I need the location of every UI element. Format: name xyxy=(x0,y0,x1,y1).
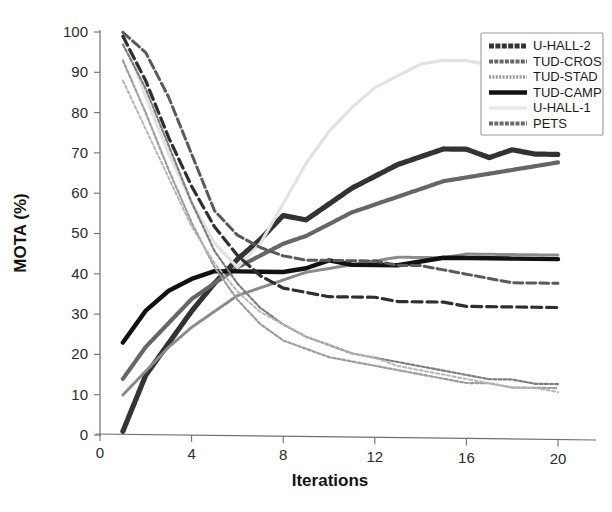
y-tick-label: 60 xyxy=(71,184,88,201)
y-tick-label: 40 xyxy=(71,265,88,282)
y-tick-label: 80 xyxy=(71,104,88,121)
x-tick-label: 12 xyxy=(366,448,383,465)
legend-label-pets: PETS xyxy=(533,116,567,131)
legend-label-tud-cros: TUD-CROS xyxy=(533,54,602,69)
chart-container: 0102030405060708090100 048121620 MOTA (%… xyxy=(0,0,612,512)
legend-label-tud-camp: TUD-CAMP xyxy=(533,85,602,100)
y-tick-label: 20 xyxy=(71,345,88,362)
x-tick-label: 20 xyxy=(550,450,567,467)
legend-label-tud-stad: TUD-STAD xyxy=(533,69,598,84)
y-tick-label: 100 xyxy=(63,23,88,40)
mota-iterations-line-chart: 0102030405060708090100 048121620 MOTA (%… xyxy=(0,0,612,512)
x-tick-label: 4 xyxy=(187,445,195,462)
x-tick-label: 0 xyxy=(96,444,104,461)
y-tick-label: 10 xyxy=(71,386,88,403)
x-axis-title: Iterations xyxy=(292,471,369,490)
y-tick-label: 90 xyxy=(71,63,88,80)
y-tick-label: 70 xyxy=(71,144,88,161)
chart-legend: U-HALL-2TUD-CROSTUD-STADTUD-CAMPU-HALL-1… xyxy=(481,33,603,135)
legend-label-u-hall-2: U-HALL-2 xyxy=(533,38,591,53)
x-tick-label: 8 xyxy=(279,446,287,463)
y-tick-label: 30 xyxy=(71,305,88,322)
y-tick-label: 0 xyxy=(80,426,88,443)
legend-label-u-hall-1: U-HALL-1 xyxy=(533,100,591,115)
y-axis-title: MOTA (%) xyxy=(11,193,30,272)
y-tick-label: 50 xyxy=(71,224,88,241)
y-axis-ticks: 0102030405060708090100 xyxy=(63,23,100,443)
x-tick-label: 16 xyxy=(458,449,475,466)
